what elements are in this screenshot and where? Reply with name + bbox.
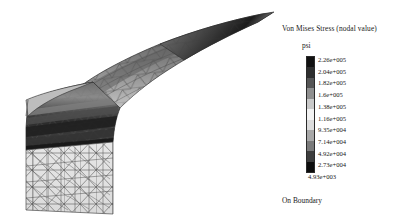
legend-colorbar	[306, 56, 315, 173]
colorbar-segment-5	[307, 109, 314, 119]
colorbar-segment-8	[307, 141, 314, 151]
legend-tick-value: 7.14e+004	[318, 138, 346, 146]
colorbar-segment-10	[307, 162, 314, 172]
legend-unit-label: psi	[302, 41, 311, 50]
legend-footer-note: On Boundary	[282, 196, 322, 205]
legend-tick-value: 4.93e+003	[308, 173, 336, 181]
stress-contour-model[interactable]	[0, 0, 280, 222]
colorbar-segment-2	[307, 78, 314, 88]
legend-tick-value: 2.73e+004	[318, 161, 346, 169]
legend-tick-value: 2.04e+005	[318, 68, 346, 76]
mesh-canvas	[0, 0, 280, 222]
colorbar-segment-6	[307, 120, 314, 130]
colorbar-segment-9	[307, 151, 314, 161]
legend-tick-value: 1.82e+005	[318, 79, 346, 87]
fea-result-viewport: Von Mises Stress (nodal value) psi 2.26e…	[0, 0, 419, 222]
legend-tick-value: 4.92e+004	[318, 150, 346, 158]
stress-legend: Von Mises Stress (nodal value) psi 2.26e…	[272, 0, 419, 222]
legend-title: Von Mises Stress (nodal value)	[282, 24, 419, 33]
low-stress-column	[20, 138, 120, 218]
colorbar-segment-7	[307, 130, 314, 140]
legend-tick-value: 2.26e+005	[318, 56, 346, 64]
legend-tick-list: 2.26e+0052.04e+0051.82e+0051.6e+0051.38e…	[318, 52, 413, 176]
legend-tick-value: 9.35e+004	[318, 126, 346, 134]
colorbar-segment-0	[307, 57, 314, 67]
legend-tick-value: 1.38e+005	[318, 103, 346, 111]
colorbar-segment-4	[307, 99, 314, 109]
legend-tick-value: 1.16e+005	[318, 115, 346, 123]
colorbar-segment-1	[307, 67, 314, 77]
legend-tick-value: 1.6e+005	[318, 91, 343, 99]
colorbar-segment-3	[307, 88, 314, 98]
